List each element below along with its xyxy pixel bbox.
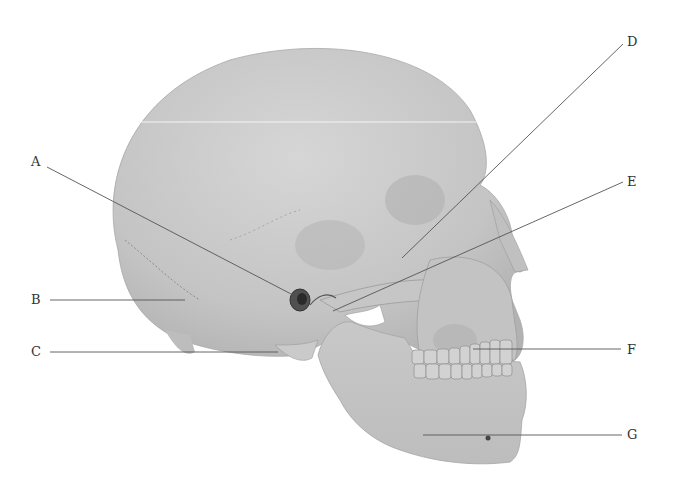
label-b: B [31,293,41,306]
skull-illustration [0,0,675,494]
label-f: F [627,343,636,356]
label-a: A [31,155,40,168]
skull-diagram: A B C D E F G [0,0,675,494]
label-e: E [627,175,637,188]
label-c: C [31,345,41,358]
label-g: G [627,428,637,441]
label-d: D [627,35,637,48]
